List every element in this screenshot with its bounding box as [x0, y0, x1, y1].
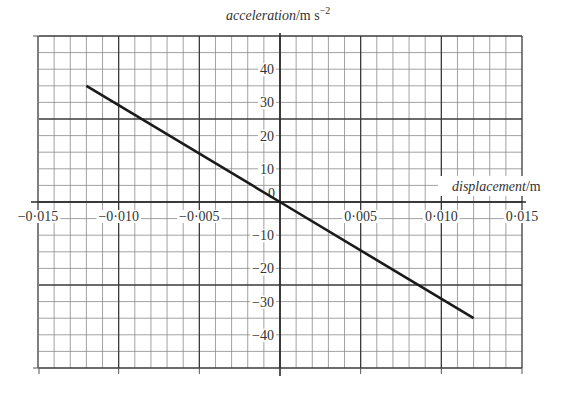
y-tick-label: −40: [252, 328, 274, 343]
y-tick-label: −10: [252, 228, 274, 243]
y-tick-label: 40: [260, 62, 274, 77]
y-tick-label: −20: [252, 261, 274, 276]
x-tick-label: 0·015: [506, 209, 539, 224]
x-tick-label: −0·015: [18, 209, 59, 224]
x-tick-label: 0·005: [344, 209, 377, 224]
x-axis-label: displacement/m: [452, 179, 541, 194]
y-tick-label: 20: [260, 129, 274, 144]
y-axis-label-quantity: acceleration: [226, 8, 296, 23]
y-tick-label: 30: [260, 95, 274, 110]
x-tick-label: −0·010: [98, 209, 139, 224]
x-tick-label: 0·010: [425, 209, 458, 224]
axes: [31, 33, 526, 376]
y-tick-label: −30: [252, 295, 274, 310]
y-tick-label: 10: [260, 162, 274, 177]
y-axis-label-unit: /m s: [296, 8, 320, 23]
x-axis-label-quantity: displacement: [452, 179, 527, 194]
x-tick-label: −0·005: [179, 209, 220, 224]
y-axis-label: acceleration/m s−2: [226, 5, 330, 23]
x-axis-label-unit: /m: [526, 179, 541, 194]
y-axis-label-exponent: −2: [320, 5, 331, 16]
acceleration-displacement-graph: −0·015−0·010−0·0050·0050·0100·0154030201…: [0, 0, 567, 393]
